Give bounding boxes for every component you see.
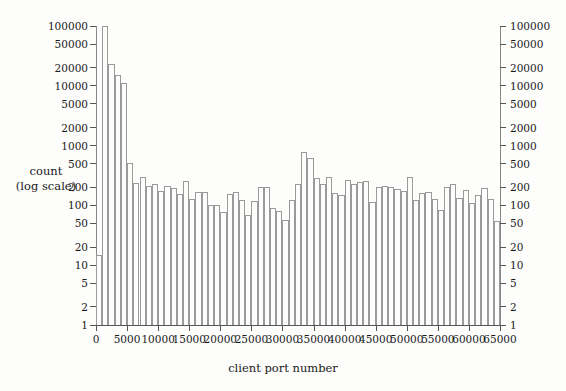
y-axis-title: count (log scale) <box>6 164 86 194</box>
y-tick-label-left-1: 1 <box>81 320 88 331</box>
x-tick-30000 <box>282 325 283 331</box>
y-tick-label-right-10000: 10000 <box>510 81 543 92</box>
y-tick-label-left-20000: 20000 <box>55 63 88 74</box>
x-tick-15000 <box>189 325 190 331</box>
y-tick-label-left-5: 5 <box>81 278 88 289</box>
x-tick-60000 <box>469 325 470 331</box>
y-tick-label-right-100: 100 <box>510 200 530 211</box>
y-tick-right-100000 <box>500 26 506 27</box>
y-axis-title-line-2: (log scale) <box>6 179 86 194</box>
y-tick-label-right-5: 5 <box>510 278 517 289</box>
y-tick-label-right-100000: 100000 <box>510 21 550 32</box>
y-tick-right-200 <box>500 187 506 188</box>
y-tick-label-left-1000: 1000 <box>61 141 88 152</box>
x-tick-35000 <box>314 325 315 331</box>
y-tick-label-right-2000: 2000 <box>510 123 537 134</box>
x-tick-20000 <box>220 325 221 331</box>
y-tick-label-left-100000: 100000 <box>48 21 88 32</box>
bar <box>494 221 500 325</box>
y-tick-label-right-50: 50 <box>510 218 523 229</box>
histogram-figure: 1251020501002005001000200050001000020000… <box>0 0 566 391</box>
x-tick-45000 <box>376 325 377 331</box>
x-tick-label-65000: 65000 <box>470 334 530 345</box>
y-tick-right-20 <box>500 247 506 248</box>
y-tick-label-right-10: 10 <box>510 260 523 271</box>
y-tick-right-5000 <box>500 103 506 104</box>
y-tick-label-left-20: 20 <box>75 242 88 253</box>
y-axis-title-line-1: count <box>6 164 86 179</box>
y-tick-label-left-5000: 5000 <box>61 99 88 110</box>
y-tick-label-left-50: 50 <box>75 218 88 229</box>
y-tick-label-left-100: 100 <box>68 200 88 211</box>
x-tick-55000 <box>438 325 439 331</box>
y-tick-right-100 <box>500 205 506 206</box>
x-tick-50000 <box>407 325 408 331</box>
x-tick-65000 <box>500 325 501 331</box>
y-tick-label-left-2: 2 <box>81 302 88 313</box>
y-tick-right-50 <box>500 223 506 224</box>
y-tick-label-right-5000: 5000 <box>510 99 537 110</box>
x-axis-line <box>96 325 500 326</box>
x-tick-0 <box>96 325 97 331</box>
x-tick-25000 <box>251 325 252 331</box>
y-tick-label-left-10: 10 <box>75 260 88 271</box>
y-tick-right-10 <box>500 265 506 266</box>
y-axis-line-right <box>500 26 501 325</box>
y-tick-right-500 <box>500 163 506 164</box>
y-tick-label-right-500: 500 <box>510 159 530 170</box>
y-tick-right-5 <box>500 283 506 284</box>
y-tick-label-right-20000: 20000 <box>510 63 543 74</box>
y-tick-label-right-2: 2 <box>510 302 517 313</box>
x-tick-5000 <box>127 325 128 331</box>
x-tick-40000 <box>345 325 346 331</box>
y-tick-label-right-1000: 1000 <box>510 141 537 152</box>
plot-area <box>96 26 500 325</box>
y-tick-label-left-50000: 50000 <box>55 39 88 50</box>
y-tick-right-2 <box>500 306 506 307</box>
x-axis-title: client port number <box>0 361 566 375</box>
y-tick-label-right-200: 200 <box>510 182 530 193</box>
y-tick-right-50000 <box>500 44 506 45</box>
y-tick-label-right-20: 20 <box>510 242 523 253</box>
y-tick-label-left-10000: 10000 <box>55 81 88 92</box>
y-tick-label-right-50000: 50000 <box>510 39 543 50</box>
x-tick-10000 <box>158 325 159 331</box>
y-tick-right-10000 <box>500 85 506 86</box>
y-tick-right-20000 <box>500 67 506 68</box>
y-tick-label-right-1: 1 <box>510 320 517 331</box>
y-tick-right-2000 <box>500 127 506 128</box>
y-tick-right-1000 <box>500 145 506 146</box>
y-tick-label-left-2000: 2000 <box>61 123 88 134</box>
